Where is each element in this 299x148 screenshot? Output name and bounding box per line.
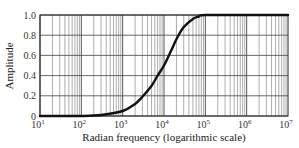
x-tick-label: 101 [31,118,45,130]
y-axis-ticks: 00.20.40.60.81.0 [24,10,37,122]
x-tick-label: 106 [238,118,252,130]
y-tick-label: 1.0 [24,10,37,21]
y-tick-label: 0.8 [24,30,37,41]
y-tick-label: 0.2 [24,90,37,101]
x-axis-ticks: 101102103104105106107 [31,118,293,130]
x-tick-label: 102 [73,118,87,130]
y-axis-title: Amplitude [3,42,15,89]
x-tick-label: 105 [197,118,211,130]
y-tick-label: 0.6 [24,50,37,61]
x-tick-label: 104 [155,118,169,130]
x-tick-label: 103 [114,118,128,130]
x-tick-label: 107 [279,118,293,130]
y-tick-label: 0.4 [24,70,37,81]
chart: 00.20.40.60.81.0 101102103104105106107 R… [0,0,299,148]
x-axis-title: Radian frequency (logarithmic scale) [82,131,246,144]
